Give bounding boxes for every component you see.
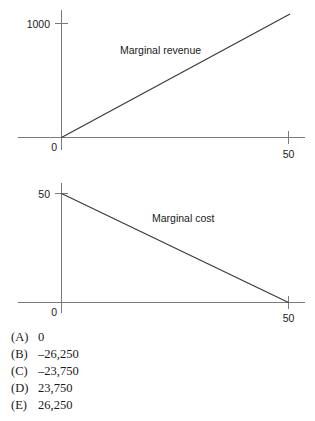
answer-choice-c[interactable]: (C) –23,750 — [0, 363, 315, 380]
choice-letter: (C) — [11, 363, 38, 380]
series-label-marginal-revenue: Marginal revenue — [120, 44, 201, 56]
answer-choice-e[interactable]: (E) 26,250 — [0, 397, 315, 414]
choice-value: 26,250 — [38, 397, 72, 414]
answer-choice-b[interactable]: (B) –26,250 — [0, 346, 315, 363]
answer-choice-a[interactable]: (A) 0 — [0, 329, 315, 346]
choice-value: 23,750 — [38, 380, 72, 397]
x-tick-label-50: 50 — [283, 148, 295, 160]
origin-label: 0 — [51, 306, 57, 318]
y-tick-label-1000: 1000 — [27, 18, 51, 30]
origin-label: 0 — [51, 141, 57, 153]
x-tick-label-50: 50 — [283, 312, 295, 324]
choice-value: –26,250 — [38, 346, 79, 363]
choice-letter: (B) — [11, 346, 38, 363]
series-label-marginal-cost: Marginal cost — [152, 212, 215, 224]
answer-choice-list: (A) 0 (B) –26,250 (C) –23,750 (D) 23,750… — [0, 329, 315, 414]
choice-letter: (A) — [11, 329, 38, 346]
choice-value: 0 — [38, 329, 44, 346]
marginal-revenue-line — [62, 14, 291, 138]
marginal-cost-line — [62, 194, 289, 303]
choice-letter: (D) — [11, 380, 38, 397]
choice-value: –23,750 — [38, 363, 79, 380]
question-figure-page: 1000 0 50 Marginal revenue 50 0 50 Margi… — [0, 0, 315, 421]
answer-choice-d[interactable]: (D) 23,750 — [0, 380, 315, 397]
choice-letter: (E) — [11, 397, 38, 414]
chart-marginal-revenue: 1000 0 50 Marginal revenue — [0, 0, 315, 170]
chart-marginal-cost: 50 0 50 Marginal cost — [0, 170, 315, 325]
y-tick-label-50: 50 — [38, 188, 50, 200]
